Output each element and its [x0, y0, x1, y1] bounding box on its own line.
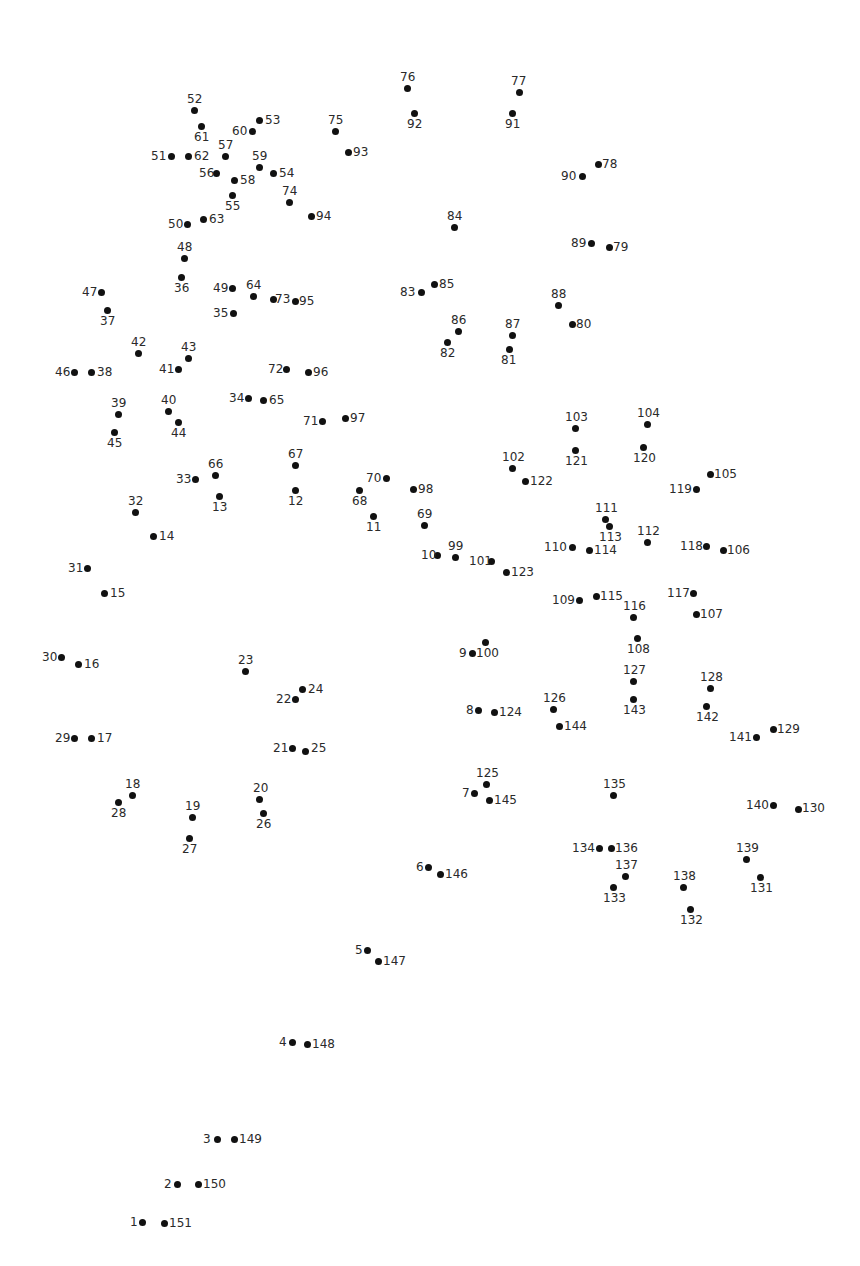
- dot-label: 49: [213, 282, 228, 294]
- dot-label: 83: [400, 286, 415, 298]
- dot-label: 140: [746, 799, 769, 811]
- dot-label: 128: [700, 671, 723, 683]
- dot-label: 76: [400, 71, 415, 83]
- dot-label: 84: [447, 210, 462, 222]
- dot-point-132: [687, 906, 694, 913]
- dot-point-19: [189, 814, 196, 821]
- dot-point-141: [753, 734, 760, 741]
- dot-point-129: [770, 726, 777, 733]
- dot-point-75: [332, 128, 339, 135]
- dot-label: 78: [602, 158, 617, 170]
- dot-point-95: [292, 298, 299, 305]
- dot-label: 79: [613, 241, 628, 253]
- dot-point-15: [101, 590, 108, 597]
- dot-label: 58: [240, 174, 255, 186]
- dot-label: 104: [637, 407, 660, 419]
- dot-point-92: [411, 110, 418, 117]
- dot-label: 135: [603, 778, 626, 790]
- dot-point-37: [104, 307, 111, 314]
- dot-label: 88: [551, 288, 566, 300]
- dot-point-58: [231, 177, 238, 184]
- dot-point-3: [214, 1136, 221, 1143]
- dot-label: 60: [232, 125, 247, 137]
- dot-point-36: [178, 274, 185, 281]
- dot-label: 129: [777, 723, 800, 735]
- dot-label: 65: [269, 394, 284, 406]
- dot-point-50: [184, 221, 191, 228]
- dot-point-85: [431, 281, 438, 288]
- dot-label: 117: [667, 587, 690, 599]
- dot-point-111: [602, 516, 609, 523]
- dot-label: 144: [564, 720, 587, 732]
- dot-point-79: [606, 244, 613, 251]
- dot-label: 103: [565, 411, 588, 423]
- dot-point-60: [249, 128, 256, 135]
- dot-label: 42: [131, 336, 146, 348]
- dot-point-8: [475, 707, 482, 714]
- dot-label: 29: [55, 732, 70, 744]
- dot-label: 149: [239, 1133, 262, 1145]
- dot-point-107: [693, 611, 700, 618]
- dot-label: 14: [159, 530, 174, 542]
- dot-to-dot-canvas: 1234567891011121314151617181920212223242…: [0, 0, 860, 1266]
- dot-point-55: [229, 192, 236, 199]
- dot-label: 87: [505, 318, 520, 330]
- dot-label: 32: [128, 495, 143, 507]
- dot-label: 28: [111, 807, 126, 819]
- dot-point-22: [292, 696, 299, 703]
- dot-label: 51: [151, 150, 166, 162]
- dot-point-102: [509, 465, 516, 472]
- dot-point-112: [644, 539, 651, 546]
- dot-label: 124: [499, 706, 522, 718]
- dot-label: 77: [511, 75, 526, 87]
- dot-point-16: [75, 661, 82, 668]
- dot-point-96: [305, 369, 312, 376]
- dot-label: 53: [265, 114, 280, 126]
- dot-label: 35: [213, 307, 228, 319]
- dot-point-131: [757, 874, 764, 881]
- dot-point-145: [486, 797, 493, 804]
- dot-point-23: [242, 668, 249, 675]
- dot-label: 24: [308, 683, 323, 695]
- dot-point-137: [622, 873, 629, 880]
- dot-point-136: [608, 845, 615, 852]
- dot-label: 141: [729, 731, 752, 743]
- dot-point-99: [452, 554, 459, 561]
- dot-point-14: [150, 533, 157, 540]
- dot-label: 118: [680, 540, 703, 552]
- dot-label: 30: [42, 651, 57, 663]
- dot-label: 110: [544, 541, 567, 553]
- dot-point-68: [356, 487, 363, 494]
- dot-label: 143: [623, 704, 646, 716]
- dot-label: 40: [161, 394, 176, 406]
- dot-point-151: [161, 1220, 168, 1227]
- dot-point-12: [292, 487, 299, 494]
- dot-point-59: [256, 164, 263, 171]
- dot-point-47: [98, 289, 105, 296]
- dot-label: 52: [187, 93, 202, 105]
- dot-point-90: [579, 173, 586, 180]
- dot-point-148: [304, 1041, 311, 1048]
- dot-point-11: [370, 513, 377, 520]
- dot-point-142: [703, 703, 710, 710]
- dot-label: 80: [576, 318, 591, 330]
- dot-point-63: [200, 216, 207, 223]
- dot-label: 109: [552, 594, 575, 606]
- dot-label: 95: [299, 295, 314, 307]
- dot-point-80: [569, 321, 576, 328]
- dot-point-45: [111, 429, 118, 436]
- dot-label: 47: [82, 286, 97, 298]
- dot-label: 22: [276, 693, 291, 705]
- dot-point-53: [256, 117, 263, 124]
- dot-point-94: [308, 213, 315, 220]
- dot-label: 43: [181, 341, 196, 353]
- dot-point-144: [556, 723, 563, 730]
- dot-point-78: [595, 161, 602, 168]
- dot-label: 16: [84, 658, 99, 670]
- dot-label: 68: [352, 495, 367, 507]
- dot-label: 151: [169, 1217, 192, 1229]
- dot-label: 39: [111, 397, 126, 409]
- dot-label: 12: [288, 495, 303, 507]
- dot-point-71: [319, 418, 326, 425]
- dot-point-2: [174, 1181, 181, 1188]
